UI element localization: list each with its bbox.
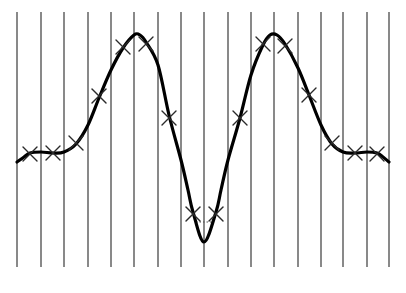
sampled-signal-diagram: [0, 0, 406, 293]
diagram-stage: [0, 0, 406, 293]
diagram-background: [0, 0, 406, 293]
